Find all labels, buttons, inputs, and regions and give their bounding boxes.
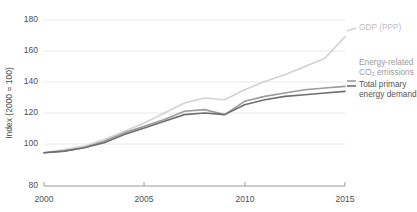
legend-swatch-gdp bbox=[347, 28, 356, 31]
x-tick-label-2005: 2005 bbox=[135, 194, 154, 204]
y-axis-title: Index (2000 = 100) bbox=[4, 67, 14, 139]
series-group bbox=[44, 37, 345, 153]
x-tick-label-2010: 2010 bbox=[236, 194, 255, 204]
legend-label-co2: Energy-related CO₂ emissions bbox=[359, 58, 414, 77]
y-tick-label-120: 120 bbox=[24, 107, 38, 117]
y-tick-label-180: 180 bbox=[24, 14, 38, 24]
legend-label-total-primary-energy: Total primary energy demand bbox=[359, 80, 417, 99]
chart-container: 180 160 140 120 100 80 2000 2005 2010 20… bbox=[0, 0, 417, 212]
y-tick-label-80: 80 bbox=[29, 180, 39, 190]
legend-label-tpe-line2: energy demand bbox=[359, 90, 417, 100]
y-tick-label-160: 160 bbox=[24, 45, 38, 55]
legend-label-gdp: GDP (PPP) bbox=[359, 23, 401, 33]
y-tick-label-140: 140 bbox=[24, 76, 38, 86]
series-line-co2 bbox=[44, 86, 345, 152]
x-axis bbox=[44, 182, 345, 186]
x-tick-label-2000: 2000 bbox=[35, 194, 54, 204]
y-tick-labels: 180 160 140 120 100 80 bbox=[24, 14, 38, 190]
x-tick-labels: 2000 2005 2010 2015 bbox=[35, 194, 355, 204]
line-chart-svg: 180 160 140 120 100 80 2000 2005 2010 20… bbox=[0, 0, 417, 212]
legend-label-co2-line2: CO₂ emissions bbox=[359, 68, 414, 78]
gridlines bbox=[44, 20, 345, 144]
x-tick-label-2015: 2015 bbox=[336, 194, 355, 204]
y-tick-label-100: 100 bbox=[24, 138, 38, 148]
legend-swatches bbox=[347, 28, 356, 86]
